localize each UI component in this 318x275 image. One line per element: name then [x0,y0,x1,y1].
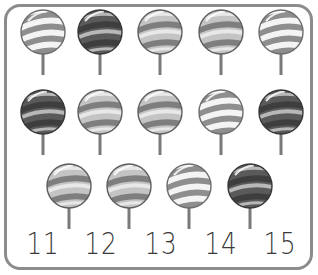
number-choice-14[interactable]: 14 [201,226,242,262]
lollipop-light [166,163,212,231]
lollipop-icon [258,9,304,77]
lollipop-light [198,89,244,157]
lollipop-medium [137,9,183,77]
lollipop-medium [137,89,183,157]
number-choice-12[interactable]: 12 [81,226,122,262]
lollipop-icon [258,89,304,157]
lollipop-icon [106,163,152,231]
lollipop-light [20,9,66,77]
number-choice-15[interactable]: 15 [260,226,301,262]
lollipop-dark [227,163,273,231]
lollipop-icon [46,163,92,231]
lollipop-icon [20,89,66,157]
lollipop-dark [20,89,66,157]
lollipop-icon [20,9,66,77]
lollipop-icon [137,9,183,77]
lollipop-dark [258,89,304,157]
lollipop-medium [46,163,92,231]
lollipop-icon [198,89,244,157]
lollipop-medium [77,89,123,157]
lollipop-medium [106,163,152,231]
lollipop-icon [198,9,244,77]
lollipop-icon [227,163,273,231]
number-choice-13[interactable]: 13 [141,226,182,262]
lollipop-icon [137,89,183,157]
lollipop-dark [77,9,123,77]
lollipop-medium [198,9,244,77]
number-choice-11[interactable]: 11 [23,226,64,262]
lollipop-icon [77,89,123,157]
lollipop-icon [77,9,123,77]
lollipop-light [258,9,304,77]
lollipop-icon [166,163,212,231]
